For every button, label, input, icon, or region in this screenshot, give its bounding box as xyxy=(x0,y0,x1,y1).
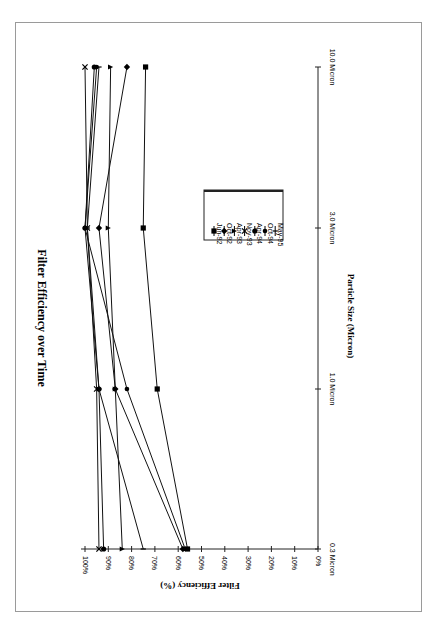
y-tick-label: 50% xyxy=(198,556,205,570)
series-may-95 xyxy=(85,67,146,549)
series-apr-93 xyxy=(106,64,125,551)
legend-label: Oct-92 xyxy=(226,223,233,244)
series-jun-92 xyxy=(141,64,190,551)
x-tick-label: 3.0 Micron xyxy=(329,212,336,245)
y-tick-label: 10% xyxy=(291,556,298,570)
y-tick-label: 30% xyxy=(245,556,252,570)
legend-label: May-95 xyxy=(276,223,284,246)
dot-marker-icon xyxy=(125,387,130,392)
square-marker-icon xyxy=(141,225,146,230)
x-tick-label: 1.0 Micron xyxy=(329,373,336,406)
square-marker-icon xyxy=(155,386,160,391)
x-tick-label: 10.0 Micron xyxy=(329,49,336,86)
series-line xyxy=(85,67,104,549)
circle-marker-icon xyxy=(101,546,106,551)
y-axis-title: Filter Efficiency (%) xyxy=(160,581,239,591)
y-tick-label: 60% xyxy=(175,556,182,570)
legend-label: Nov-93 xyxy=(246,223,253,246)
y-tick-label: 90% xyxy=(105,556,112,570)
chart-title: Filter Efficiency over Time xyxy=(35,249,49,387)
series-line xyxy=(108,67,122,549)
dot-marker-icon xyxy=(183,547,188,552)
y-tick-label: 40% xyxy=(221,556,228,570)
x-tick-label: 0.3 Micron xyxy=(329,543,336,576)
legend-label: Jun-92 xyxy=(216,223,223,245)
series-line xyxy=(87,67,143,549)
y-tick-label: 20% xyxy=(268,556,275,570)
diamond-marker-icon xyxy=(96,225,102,231)
legend-label: Apr-93 xyxy=(235,223,243,244)
diamond-marker-icon xyxy=(124,64,130,70)
filter-efficiency-chart: Filter Efficiency over Time0%10%20%30%40… xyxy=(0,0,433,623)
y-tick-label: 80% xyxy=(128,556,135,570)
series-line xyxy=(85,67,185,549)
y-tick-label: 70% xyxy=(151,556,158,570)
y-tick-label: 100% xyxy=(82,556,89,574)
legend-label: Apr-94 xyxy=(255,223,263,244)
series-line xyxy=(143,67,187,549)
legend-label: Oct-94 xyxy=(267,223,274,244)
x-axis-title: Particle Size (Micron) xyxy=(346,274,356,358)
y-tick-label: 0% xyxy=(315,556,322,566)
square-marker-icon xyxy=(143,64,148,69)
